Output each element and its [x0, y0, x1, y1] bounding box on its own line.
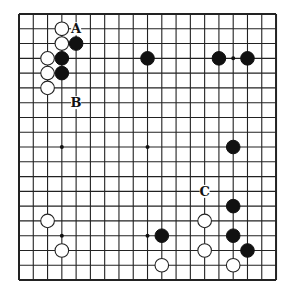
black-stone[interactable] — [226, 199, 240, 213]
point-labels: ABC — [70, 21, 210, 199]
white-stone[interactable] — [41, 81, 55, 95]
star-point — [60, 234, 64, 238]
black-stone[interactable] — [69, 37, 83, 51]
black-stone[interactable] — [226, 140, 240, 154]
black-stone[interactable] — [241, 52, 255, 66]
point-label-b: B — [71, 95, 82, 110]
star-point — [231, 56, 235, 60]
white-stone[interactable] — [41, 214, 55, 228]
black-stone[interactable] — [141, 52, 155, 66]
black-stone[interactable] — [212, 52, 226, 66]
white-stone[interactable] — [198, 244, 212, 258]
black-stone[interactable] — [226, 229, 240, 243]
go-board: ABC — [0, 0, 291, 296]
black-stone[interactable] — [241, 244, 255, 258]
point-label-a: A — [70, 21, 82, 36]
white-stone[interactable] — [155, 258, 169, 272]
white-stone[interactable] — [55, 37, 69, 51]
white-stone[interactable] — [55, 22, 69, 36]
white-stone[interactable] — [226, 258, 240, 272]
black-stone[interactable] — [55, 66, 69, 80]
point-label-c: C — [199, 184, 209, 199]
white-stone[interactable] — [55, 244, 69, 258]
star-point — [146, 145, 150, 149]
white-stone[interactable] — [41, 52, 55, 66]
black-stone[interactable] — [55, 52, 69, 66]
star-point — [60, 145, 64, 149]
white-stone[interactable] — [41, 66, 55, 80]
white-stone[interactable] — [198, 214, 212, 228]
black-stone[interactable] — [155, 229, 169, 243]
star-point — [146, 234, 150, 238]
